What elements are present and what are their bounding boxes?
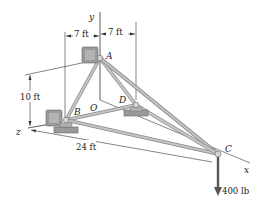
x-axis-label: x (244, 165, 249, 175)
point-d-label: D (118, 95, 126, 105)
z-axis-label: z (15, 127, 21, 137)
joint-b (63, 117, 69, 123)
load-arrowhead (214, 187, 222, 196)
support-a (82, 47, 98, 63)
load-label: 400 lb (222, 186, 250, 196)
point-a-label: A (105, 51, 113, 61)
dim-left-label: 7 ft (74, 29, 89, 39)
arrowhead (66, 35, 71, 38)
point-b-label: B (73, 107, 81, 117)
dim-length-label: 24 ft (76, 142, 97, 152)
arrowhead (31, 130, 36, 133)
arrowhead (29, 75, 32, 80)
joint-d (133, 102, 139, 108)
arrowhead (101, 33, 106, 36)
arrowhead (94, 35, 99, 38)
arrowhead (29, 121, 32, 126)
arrowhead (130, 33, 135, 36)
joint-a (97, 55, 103, 61)
truss-members (66, 58, 218, 154)
point-c-label: C (225, 144, 232, 154)
dim-height-label: 10 ft (20, 92, 41, 102)
truss-diagram: y 7 ft 7 ft 10 ft z 24 ft x (0, 0, 264, 200)
dim-right-label: 7 ft (108, 27, 123, 37)
origin-label: O (90, 103, 98, 113)
joint-c (215, 151, 221, 157)
y-axis-label: y (88, 12, 95, 22)
